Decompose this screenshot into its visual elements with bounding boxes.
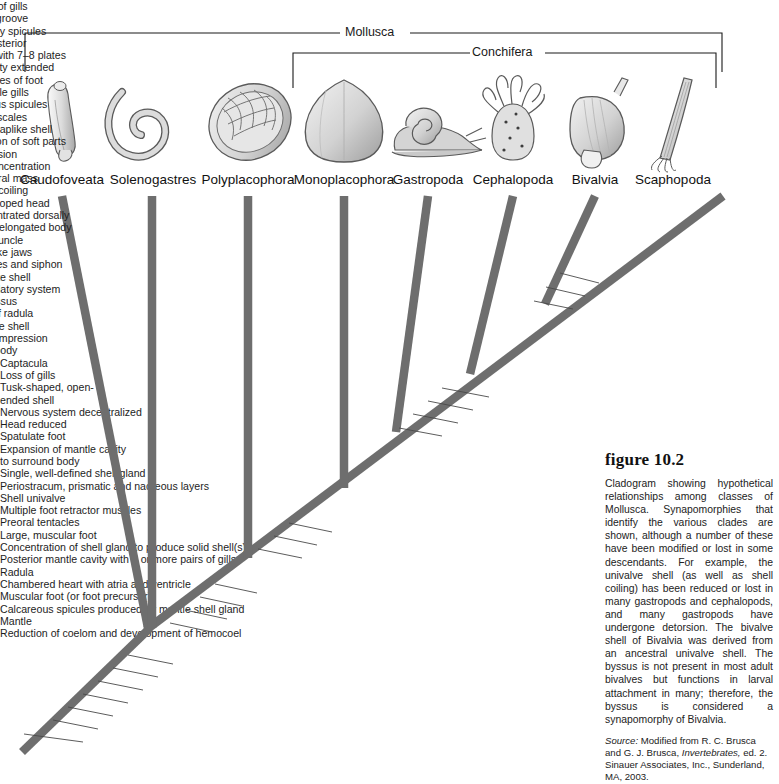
organism-bivalvia [570,78,628,168]
figure-caption-block: figure 10.2 Cladogram showing hypothetic… [605,450,773,784]
synapomorphy-line: Serial repetition of soft parts [0,135,390,147]
synapomorphy-block-caudofoveata: Calcareous spiculesform scales [0,98,390,123]
synapomorphy-line: of visceral mass [0,172,390,184]
synapomorphy-block-conchifera-node: Shell coilingWell-developed headViscera … [0,184,390,233]
taxon-label-scaphopoda: Scaphopoda [635,172,711,187]
taxon-label-bivalvia: Bivalvia [572,172,619,187]
organism-scaphopoda [651,78,692,172]
synapomorphy-line: of body [0,344,390,356]
figure-source: Source: Modified from R. C. Brusca and G… [605,735,773,784]
synapomorphy-line: Dorsoventrally elongated body [0,221,390,233]
synapomorphy-line: Bivalve shell [0,320,390,332]
synapomorphy-line: Shell coiling [0,184,390,196]
leader-line [128,655,173,664]
leader-line [68,707,113,716]
synapomorphy-line: Further concentration [0,160,390,172]
synapomorphy-line: Lateral compression [0,332,390,344]
synapomorphy-line: along sides of foot [0,74,390,86]
figure-caption-text: Cladogram showing hypothetical relations… [605,477,773,726]
leader-line [258,549,302,558]
leader-line [200,597,242,606]
synapomorphy-line: at posterior [0,37,390,49]
organism-gastropoda [392,108,486,157]
synapomorphy-line: Loss of gills [0,0,390,12]
synapomorphy-block-cephalopoda: SiphuncleBeaklike jawsArms/tentacles and… [0,234,390,295]
leader-line [289,523,332,532]
source-label: Source: [605,735,638,746]
leader-line [534,301,573,309]
synapomorphy-line: Arms/tentacles and siphon [0,258,390,270]
source-title: Invertebrates, [682,747,741,758]
synapomorphy-line: Copulatory spicules [0,25,390,37]
synapomorphy-line: Mantle cavity extended [0,61,390,73]
synapomorphy-line: Siphuncle [0,234,390,246]
synapomorphy-line: Well-developed head [0,197,390,209]
synapomorphy-line: Septate shell [0,271,390,283]
leader-line [170,623,212,632]
leader-line [560,273,599,283]
leader-line [113,668,158,677]
leader-line [83,694,128,703]
synapomorphy-block-bivalvia: ByssusLoss of radulaBivalve shellLateral… [0,295,390,356]
synapomorphy-block-polyplacophora: Unique shell with 7–8 platesMantle cavit… [0,49,390,98]
leader-line [215,584,257,593]
synapomorphy-block-monoplacophora: Univalve, caplike shellSerial repetition… [0,123,390,148]
synapomorphy-line: Unique shell with 7–8 plates [0,49,390,61]
branch-cephalopoda [470,196,513,374]
synapomorphy-line: Multiple gills [0,86,390,98]
synapomorphy-line: Byssus [0,295,390,307]
leader-line [98,681,143,690]
synapomorphy-line: Beaklike jaws [0,246,390,258]
synapomorphy-line: Closed circulatory system [0,283,390,295]
synapomorphy-line: form scales [0,111,390,123]
leader-line [53,720,98,729]
leader-line [274,536,317,545]
leader-line [185,610,227,619]
figure-number: figure 10.2 [605,450,773,470]
synapomorphy-block-gastropoda: TorsionFurther concentrationof visceral … [0,148,390,185]
synapomorphy-line: Viscera concentrated dorsally [0,209,390,221]
synapomorphy-line: Calcareous spicules [0,98,390,110]
organism-cephalopoda [483,76,545,160]
branch-bivalvia [545,196,595,304]
synapomorphy-line: Loss of radula [0,307,390,319]
branch-gastropoda [396,196,428,432]
taxon-label-gastropoda: Gastropoda [393,172,464,187]
synapomorphy-line: Univalve, caplike shell [0,123,390,135]
bracket-label-conchifera: Conchifera [472,45,532,59]
synapomorphy-line: Foot groove [0,12,390,24]
synapomorphy-block-solenogastres: Loss of gillsFoot grooveCopulatory spicu… [0,0,390,49]
branch-root [22,628,150,752]
synapomorphy-line: Torsion [0,148,390,160]
taxon-label-cephalopoda: Cephalopoda [473,172,553,187]
